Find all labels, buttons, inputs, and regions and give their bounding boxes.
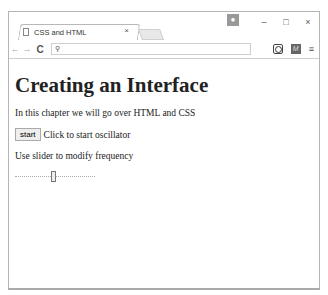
slider-thumb[interactable]	[51, 171, 56, 182]
slider-caption: Use slider to modify frequency	[15, 151, 313, 161]
back-arrow-icon[interactable]: ←	[9, 44, 21, 54]
browser-toolbar: ← → C ⚲ M ≡	[9, 40, 319, 59]
start-button[interactable]: start	[15, 128, 41, 141]
browser-window: CSS and HTML × ● – □ × ← → C ⚲ M ≡ Creat…	[8, 11, 320, 290]
title-bar: CSS and HTML × ● – □ ×	[9, 12, 319, 39]
search-icon: ⚲	[55, 45, 60, 53]
m-extension-icon[interactable]: M	[291, 44, 301, 54]
start-row: start Click to start oscillator	[15, 128, 313, 141]
menu-icon[interactable]: ≡	[309, 44, 314, 54]
reload-icon[interactable]: C	[33, 44, 47, 55]
intro-text: In this chapter we will go over HTML and…	[15, 108, 313, 118]
window-controls: ● – □ ×	[227, 12, 319, 32]
page-title: Creating an Interface	[15, 73, 313, 98]
start-caption: Click to start oscillator	[44, 130, 131, 140]
tab-close-icon[interactable]: ×	[124, 26, 129, 35]
maximize-button[interactable]: □	[275, 17, 297, 27]
frequency-slider[interactable]	[15, 171, 95, 183]
tab-title: CSS and HTML	[34, 28, 87, 37]
extension-icon[interactable]	[273, 44, 283, 54]
browser-tab[interactable]: CSS and HTML ×	[23, 25, 133, 39]
new-tab-button[interactable]	[138, 29, 164, 40]
address-bar[interactable]: ⚲	[51, 43, 251, 55]
close-button[interactable]: ×	[297, 17, 319, 27]
profile-icon[interactable]: ●	[227, 14, 239, 26]
page-content: Creating an Interface In this chapter we…	[9, 59, 319, 288]
page-icon	[23, 28, 29, 36]
forward-arrow-icon[interactable]: →	[21, 44, 33, 54]
minimize-button[interactable]: –	[253, 17, 275, 27]
